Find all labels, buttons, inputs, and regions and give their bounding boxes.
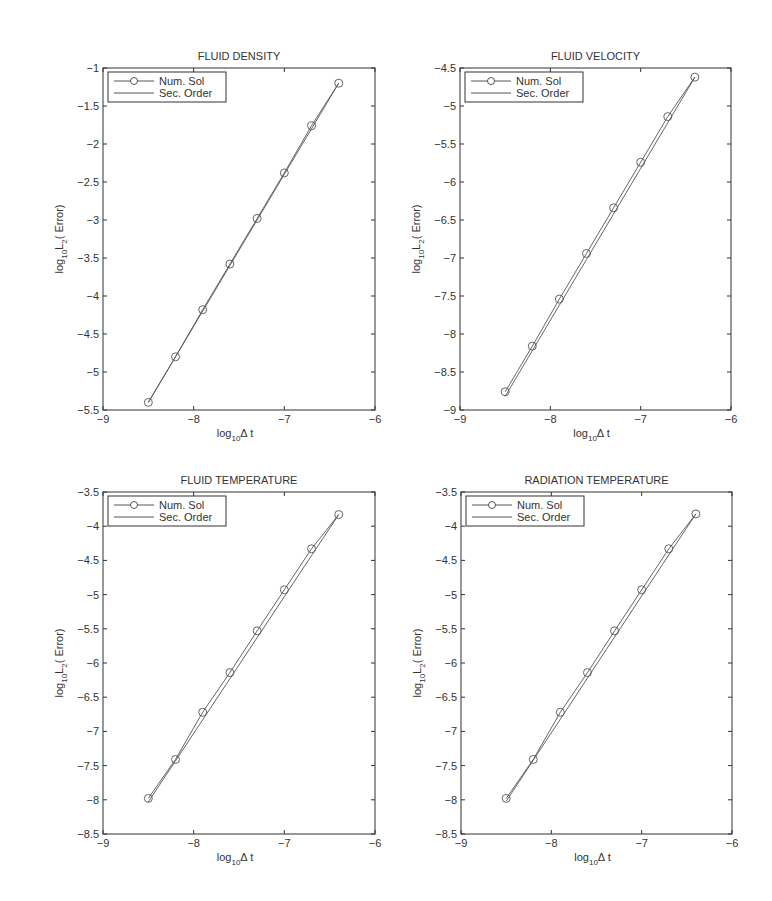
legend: Num. SolSec. Order xyxy=(466,496,584,526)
chart-title: FLUID DENSITY xyxy=(198,50,281,62)
y-axis-label: log10L2( Error) xyxy=(411,629,427,698)
chart-panel-2: FLUID VELOCITY−9−8−7−6−9−8.5−8−7.5−7−6.5… xyxy=(410,50,737,443)
legend-label-ref: Sec. Order xyxy=(159,87,213,99)
legend-label-num: Num. Sol xyxy=(517,499,562,511)
x-tick-label: −8 xyxy=(187,413,200,425)
y-tick-label: −5 xyxy=(86,366,99,378)
y-tick-label: −2.5 xyxy=(77,176,99,188)
x-axis-label: log10Δ t xyxy=(217,427,253,443)
legend: Num. SolSec. Order xyxy=(465,72,583,102)
y-tick-label: −8.5 xyxy=(77,828,99,840)
series-sec-order xyxy=(148,515,338,802)
series-sec-order xyxy=(505,77,695,396)
y-tick-label: −4 xyxy=(86,520,99,532)
legend-label-num: Num. Sol xyxy=(159,499,204,511)
chart-title: FLUID VELOCITY xyxy=(551,50,641,62)
y-tick-label: −3.5 xyxy=(77,252,99,264)
y-tick-label: −7.5 xyxy=(434,290,456,302)
x-tick-label: −8 xyxy=(544,413,557,425)
y-tick-label: −1.5 xyxy=(77,100,99,112)
circle-marker-icon xyxy=(489,502,496,509)
y-axis-label: log10L2( Error) xyxy=(53,629,69,698)
y-tick-label: −7 xyxy=(86,725,99,737)
x-tick-label: −7 xyxy=(278,837,291,849)
y-tick-label: −4.5 xyxy=(434,62,456,74)
x-tick-label: −8 xyxy=(187,837,200,849)
x-tick-label: −7 xyxy=(634,413,647,425)
legend: Num. SolSec. Order xyxy=(108,72,226,102)
y-tick-label: −1 xyxy=(86,62,99,74)
data-point-marker xyxy=(502,794,510,802)
legend-label-ref: Sec. Order xyxy=(517,511,571,523)
y-tick-label: −5.5 xyxy=(434,138,456,150)
y-tick-label: −3.5 xyxy=(435,486,457,498)
y-tick-label: −5 xyxy=(443,100,456,112)
y-tick-label: −4.5 xyxy=(77,328,99,340)
y-tick-label: −5.5 xyxy=(77,404,99,416)
plot-frame xyxy=(103,68,375,410)
y-tick-label: −2 xyxy=(86,138,99,150)
legend-label-num: Num. Sol xyxy=(516,75,561,87)
x-axis-label: log10Δ t xyxy=(573,427,609,443)
plot-frame xyxy=(461,492,732,834)
legend: Num. SolSec. Order xyxy=(108,496,226,526)
x-tick-label: −6 xyxy=(726,837,739,849)
legend-label-ref: Sec. Order xyxy=(159,511,213,523)
y-tick-label: −9 xyxy=(443,404,456,416)
data-point-marker xyxy=(335,511,343,519)
y-tick-label: −8.5 xyxy=(435,828,457,840)
circle-marker-icon xyxy=(131,78,138,85)
x-tick-label: −7 xyxy=(635,837,648,849)
y-tick-label: −6 xyxy=(443,176,456,188)
legend-label-ref: Sec. Order xyxy=(516,87,570,99)
y-tick-label: −7 xyxy=(444,725,457,737)
y-tick-label: −3.5 xyxy=(77,486,99,498)
y-axis-label: log10L2( Error) xyxy=(410,205,426,274)
y-tick-label: −7.5 xyxy=(435,760,457,772)
series-sec-order xyxy=(506,514,696,801)
y-tick-label: −5 xyxy=(86,589,99,601)
y-tick-label: −5.5 xyxy=(77,623,99,635)
x-tick-label: −6 xyxy=(369,413,382,425)
legend-label-num: Num. Sol xyxy=(159,75,204,87)
y-tick-label: −7 xyxy=(443,252,456,264)
x-tick-label: −7 xyxy=(278,413,291,425)
y-tick-label: −4 xyxy=(86,290,99,302)
y-tick-label: −3 xyxy=(86,214,99,226)
y-tick-label: −8 xyxy=(443,328,456,340)
y-tick-label: −4.5 xyxy=(435,554,457,566)
chart-title: FLUID TEMPERATURE xyxy=(181,474,298,486)
x-axis-label: log10Δ t xyxy=(574,851,610,867)
y-tick-label: −8.5 xyxy=(434,366,456,378)
y-tick-label: −4.5 xyxy=(77,554,99,566)
y-tick-label: −5 xyxy=(444,589,457,601)
y-tick-label: −6.5 xyxy=(434,214,456,226)
y-tick-label: −6 xyxy=(444,657,457,669)
y-axis-label: log10L2( Error) xyxy=(53,205,69,274)
circle-marker-icon xyxy=(131,502,138,509)
y-tick-label: −6.5 xyxy=(435,691,457,703)
y-tick-label: −8 xyxy=(86,794,99,806)
chart-title: RADIATION TEMPERATURE xyxy=(524,474,668,486)
data-point-marker xyxy=(335,79,343,87)
y-tick-label: −8 xyxy=(444,794,457,806)
chart-panel-1: FLUID DENSITY−9−8−7−6−5.5−5−4.5−4−3.5−3−… xyxy=(53,50,381,443)
chart-panel-4: RADIATION TEMPERATURE−9−8−7−6−8.5−8−7.5−… xyxy=(411,474,738,867)
x-tick-label: −6 xyxy=(369,837,382,849)
x-axis-label: log10Δ t xyxy=(217,851,253,867)
plot-frame xyxy=(103,492,375,834)
y-tick-label: −4 xyxy=(444,520,457,532)
figure-canvas: FLUID DENSITY−9−8−7−6−5.5−5−4.5−4−3.5−3−… xyxy=(0,0,772,901)
y-tick-label: −7.5 xyxy=(77,760,99,772)
y-tick-label: −6 xyxy=(86,657,99,669)
x-tick-label: −6 xyxy=(725,413,738,425)
circle-marker-icon xyxy=(488,78,495,85)
series-sec-order xyxy=(148,83,338,402)
y-tick-label: −5.5 xyxy=(435,623,457,635)
y-tick-label: −6.5 xyxy=(77,691,99,703)
x-tick-label: −8 xyxy=(545,837,558,849)
chart-panel-3: FLUID TEMPERATURE−9−8−7−6−8.5−8−7.5−7−6.… xyxy=(53,474,381,867)
